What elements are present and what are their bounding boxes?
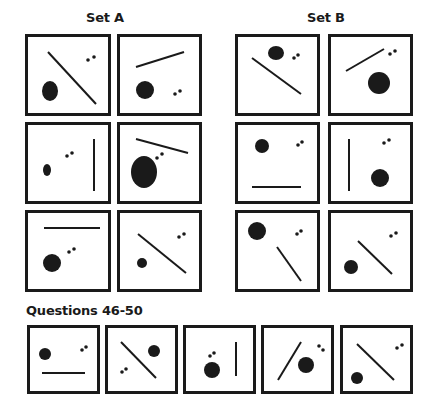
filled-circle xyxy=(298,357,314,373)
filled-circle xyxy=(351,372,363,384)
small-dot xyxy=(92,55,96,59)
set-a-panel-6 xyxy=(117,210,202,292)
small-dot xyxy=(388,52,392,56)
set-a-panel-3 xyxy=(25,122,111,204)
small-dot xyxy=(80,348,84,352)
set-b-panel-1 xyxy=(235,34,320,116)
set-b-panel-3 xyxy=(235,122,320,204)
set-a-panel-1 xyxy=(25,34,111,116)
line-segment xyxy=(346,49,384,71)
small-dot xyxy=(86,58,90,62)
small-dot xyxy=(65,154,69,158)
questions-title: Questions 46-50 xyxy=(26,303,143,318)
small-dot xyxy=(394,231,398,235)
filled-circle xyxy=(136,81,154,99)
line-segment xyxy=(252,58,301,94)
small-dot xyxy=(382,141,386,145)
small-dot xyxy=(395,346,399,350)
small-dot xyxy=(67,250,71,254)
small-dot xyxy=(208,354,212,358)
set-a-panel-4 xyxy=(117,122,202,204)
small-dot xyxy=(387,138,391,142)
set-b-title: Set B xyxy=(307,10,345,25)
question-panel-4 xyxy=(261,325,334,394)
filled-circle xyxy=(204,362,220,378)
small-dot xyxy=(182,232,186,236)
small-dot xyxy=(393,49,397,53)
set-a-panel-2 xyxy=(117,34,202,116)
question-panel-1 xyxy=(27,325,100,394)
filled-circle xyxy=(43,254,61,272)
small-dot xyxy=(212,351,216,355)
small-dot xyxy=(321,348,325,352)
small-dot xyxy=(299,229,303,233)
filled-circle xyxy=(42,81,58,101)
small-dot xyxy=(295,232,299,236)
filled-circle xyxy=(248,222,266,240)
small-dot xyxy=(296,143,300,147)
filled-circle xyxy=(39,348,51,360)
small-dot xyxy=(160,152,164,156)
small-dot xyxy=(70,151,74,155)
small-dot xyxy=(120,370,124,374)
small-dot xyxy=(317,344,321,348)
small-dot xyxy=(84,345,88,349)
line-segment xyxy=(278,342,301,380)
small-dot xyxy=(72,247,76,251)
small-dot xyxy=(124,367,128,371)
line-segment xyxy=(138,234,186,273)
filled-circle xyxy=(371,169,389,187)
line-segment xyxy=(136,139,188,153)
line-segment xyxy=(136,52,184,67)
filled-circle xyxy=(137,258,147,268)
set-b-panel-4 xyxy=(328,122,413,204)
line-segment xyxy=(357,344,394,380)
filled-circle xyxy=(255,139,269,153)
line-segment xyxy=(358,241,392,274)
filled-circle xyxy=(344,260,358,274)
filled-circle xyxy=(148,345,160,357)
set-b-panel-5 xyxy=(235,210,320,292)
line-segment xyxy=(277,247,301,281)
small-dot xyxy=(292,56,296,60)
small-dot xyxy=(155,156,159,160)
filled-circle xyxy=(43,164,51,176)
set-b-panel-2 xyxy=(328,34,413,116)
filled-circle xyxy=(131,156,157,188)
small-dot xyxy=(400,343,404,347)
small-dot xyxy=(300,140,304,144)
set-b-panel-6 xyxy=(328,210,413,292)
small-dot xyxy=(173,92,177,96)
question-panel-2 xyxy=(105,325,178,394)
question-panel-3 xyxy=(183,325,256,394)
set-a-panel-5 xyxy=(25,210,111,292)
small-dot xyxy=(389,234,393,238)
filled-circle xyxy=(268,46,284,60)
set-a-title: Set A xyxy=(86,10,124,25)
question-panel-5 xyxy=(340,325,413,394)
small-dot xyxy=(296,53,300,57)
small-dot xyxy=(178,89,182,93)
small-dot xyxy=(177,235,181,239)
filled-circle xyxy=(368,72,390,94)
